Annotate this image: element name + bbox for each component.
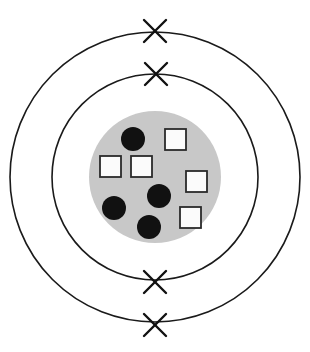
electron-inner-bottom	[144, 271, 166, 293]
proton-2	[147, 184, 171, 208]
bohr-model-diagram	[0, 0, 310, 352]
neutron-2	[100, 156, 121, 177]
neutron-5	[180, 207, 201, 228]
electron-outer-bottom	[144, 314, 166, 336]
proton-3	[102, 196, 126, 220]
neutron-4	[186, 171, 207, 192]
electron-outer-top	[144, 20, 166, 42]
neutron-3	[131, 156, 152, 177]
neutron-1	[165, 129, 186, 150]
proton-1	[121, 127, 145, 151]
proton-4	[137, 215, 161, 239]
atom-diagram-svg	[0, 0, 310, 352]
